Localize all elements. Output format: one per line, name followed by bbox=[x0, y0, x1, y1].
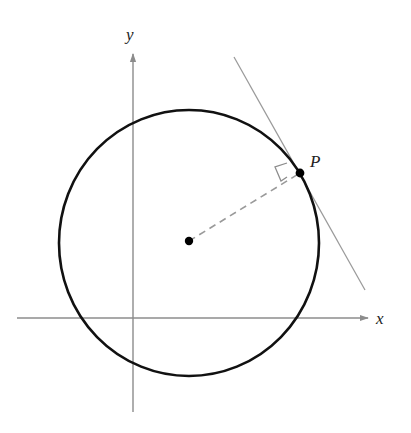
tangent-line-diagram: x y P bbox=[0, 0, 411, 433]
point-p bbox=[296, 169, 305, 178]
x-axis-label: x bbox=[375, 309, 384, 328]
point-p-label: P bbox=[309, 152, 320, 171]
right-angle-marker bbox=[275, 163, 287, 181]
y-axis-label: y bbox=[124, 25, 134, 44]
center-point bbox=[185, 237, 193, 245]
radius-dashed bbox=[189, 173, 300, 241]
